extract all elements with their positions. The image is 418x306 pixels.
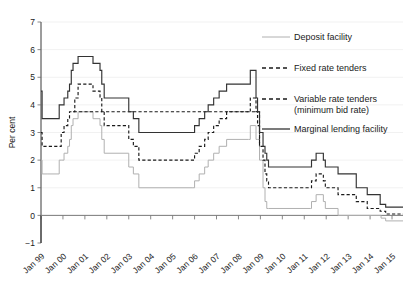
x-tick-label: Jan 03: [108, 251, 134, 276]
y-tick-label: 5: [30, 72, 35, 82]
y-tick-label: 7: [30, 17, 35, 27]
legend-label: Marginal lending facility: [294, 124, 388, 134]
y-axis-title: Per cent: [7, 116, 17, 148]
y-tick-label: 0: [30, 211, 35, 221]
x-tick-label: Jan 07: [196, 251, 222, 276]
y-tick-label: 2: [30, 155, 35, 165]
x-tick-label: Jan 14: [350, 251, 376, 276]
x-tick-label: Jan 05: [152, 251, 178, 276]
x-axis: Jan 99Jan 00Jan 01Jan 02Jan 03Jan 04Jan …: [21, 215, 398, 275]
x-tick-label: Jan 02: [86, 251, 112, 276]
x-tick-label: Jan 15: [372, 251, 398, 276]
x-tick-label: Jan 09: [240, 251, 266, 276]
x-tick-label: Jan 13: [328, 251, 354, 276]
x-tick-label: Jan 04: [130, 251, 156, 276]
data-series-group: [41, 57, 403, 221]
legend-label: Variable rate tenders: [294, 94, 377, 104]
x-tick-label: Jan 12: [306, 251, 332, 276]
legend-label: Fixed rate tenders: [294, 63, 367, 73]
series-line: [73, 84, 259, 160]
chart-container: −101234567 Jan 99Jan 00Jan 01Jan 02Jan 0…: [0, 0, 418, 306]
legend-label: Deposit facility: [294, 32, 353, 42]
x-tick-label: Jan 99: [21, 251, 47, 276]
x-tick-label: Jan 08: [218, 251, 244, 276]
y-tick-label: 6: [30, 45, 35, 55]
y-tick-label: 4: [30, 100, 35, 110]
chart-legend: Deposit facilityFixed rate tendersVariab…: [262, 32, 388, 134]
x-tick-label: Jan 10: [262, 251, 288, 276]
legend-label-secondary: (minimum bid rate): [294, 105, 369, 115]
x-tick-label: Jan 06: [174, 251, 200, 276]
y-tick-label: 1: [30, 183, 35, 193]
y-tick-label: 3: [30, 128, 35, 138]
rates-line-chart: −101234567 Jan 99Jan 00Jan 01Jan 02Jan 0…: [0, 0, 418, 306]
y-axis: −101234567: [25, 17, 41, 248]
y-tick-label: −1: [25, 238, 35, 248]
x-tick-label: Jan 01: [65, 251, 91, 276]
x-tick-label: Jan 11: [284, 251, 309, 275]
y-axis-title-text: Per cent: [7, 116, 17, 148]
x-tick-label: Jan 00: [43, 251, 69, 276]
